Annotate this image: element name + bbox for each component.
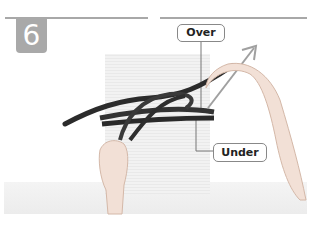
left-hand-icon (99, 141, 128, 214)
right-hand-icon (206, 63, 306, 200)
under-callout: Under (213, 143, 267, 162)
knot-illustration (0, 0, 320, 228)
over-callout: Over (177, 24, 225, 42)
